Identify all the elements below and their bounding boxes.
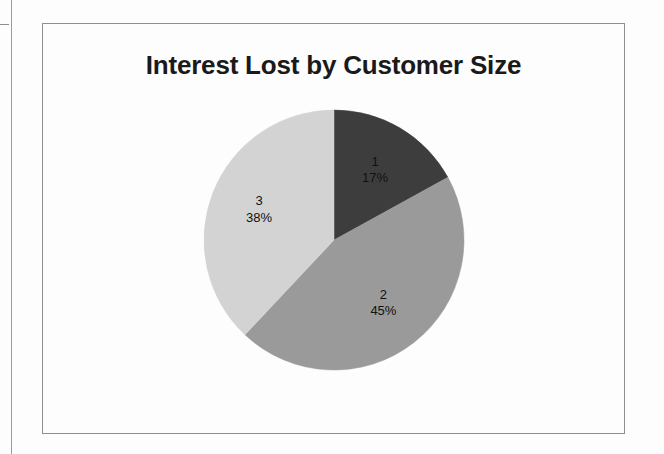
pie-slice-category-2: 2 [343, 287, 423, 303]
pie-slice-percent-1: 17% [335, 170, 415, 186]
pie-chart-svg [203, 109, 465, 371]
pie-slice-percent-2: 45% [343, 303, 423, 319]
chart-frame: Interest Lost by Customer Size 1 17% 2 4… [42, 23, 625, 434]
pie-slice-percent-3: 38% [219, 210, 299, 226]
pie-slice-label-1: 1 17% [335, 154, 415, 187]
pie-slice-category-3: 3 [219, 193, 299, 209]
document-page: Interest Lost by Customer Size 1 17% 2 4… [0, 0, 664, 454]
pie-slice-category-1: 1 [335, 154, 415, 170]
chart-title: Interest Lost by Customer Size [43, 50, 624, 81]
pie-chart: 1 17% 2 45% 3 38% [203, 109, 465, 371]
pie-slice-label-2: 2 45% [343, 287, 423, 320]
pie-slice-label-3: 3 38% [219, 193, 299, 226]
scan-artifact-tick-mark [0, 24, 9, 25]
scan-artifact-vertical-line [11, 0, 12, 454]
